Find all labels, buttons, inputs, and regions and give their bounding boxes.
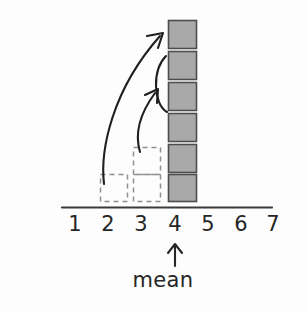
solid-block-2 — [169, 145, 197, 173]
dashed-block-col3-upper — [134, 148, 161, 175]
axis-tick-label-4: 4 — [164, 214, 186, 235]
transfer-arrow-group — [103, 33, 167, 184]
solid-block-1 — [169, 175, 197, 202]
diagram-canvas — [0, 0, 307, 312]
axis-tick-label-1: 1 — [64, 214, 86, 235]
figure-container: 1 2 3 4 5 6 7 mean — [0, 0, 307, 312]
axis-tick-label-2: 2 — [97, 214, 119, 235]
solid-block-5 — [169, 52, 197, 80]
dashed-block-col2-lower — [101, 175, 128, 202]
solid-block-3 — [169, 114, 197, 142]
axis-tick-label-7: 7 — [262, 214, 284, 235]
solid-block-group — [169, 21, 197, 202]
short-curved-arrow-shaft — [138, 93, 155, 152]
dashed-block-group — [101, 148, 161, 202]
solid-block-6 — [169, 21, 197, 49]
mean-pointer-arrow — [168, 244, 182, 266]
axis-tick-label-3: 3 — [130, 214, 152, 235]
solid-block-4 — [169, 83, 197, 111]
axis-tick-label-6: 6 — [230, 214, 252, 235]
mean-label: mean — [118, 270, 208, 291]
long-curved-arrow-shaft — [103, 36, 160, 184]
dashed-block-col3-lower — [134, 175, 161, 202]
axis-tick-label-5: 5 — [197, 214, 219, 235]
